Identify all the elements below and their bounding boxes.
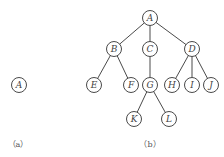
node-label: F: [127, 80, 135, 90]
edges-layer: [94, 18, 211, 119]
node-label: L: [165, 114, 172, 124]
node-label: G: [146, 80, 153, 90]
node-b-g: G: [143, 78, 158, 93]
node-label: I: [189, 80, 194, 90]
node-label: K: [130, 114, 139, 124]
node-b-i: I: [185, 78, 200, 93]
nodes-layer: AABCDEFGHIJKL: [12, 11, 219, 127]
node-b-j: J: [204, 78, 219, 93]
node-b-c: C: [143, 42, 158, 57]
caption-b: （b）: [139, 140, 160, 149]
node-b-k: K: [127, 112, 142, 127]
node-b-l: L: [162, 112, 177, 127]
node-b-b: B: [107, 42, 122, 57]
node-label: B: [110, 44, 118, 54]
node-label: D: [187, 44, 195, 54]
node-b-d: D: [185, 42, 200, 57]
node-label: H: [167, 80, 176, 90]
tree-diagram: AABCDEFGHIJKL （a） （b）: [0, 0, 224, 157]
node-b-a: A: [143, 11, 158, 26]
node-label: A: [146, 13, 154, 23]
node-b-h: H: [165, 78, 180, 93]
node-label: C: [147, 44, 154, 54]
node-a-a: A: [12, 78, 27, 93]
node-label: E: [90, 80, 98, 90]
node-b-e: E: [87, 78, 102, 93]
caption-a: （a）: [8, 140, 29, 149]
node-label: A: [15, 80, 23, 90]
node-b-f: F: [124, 78, 139, 93]
